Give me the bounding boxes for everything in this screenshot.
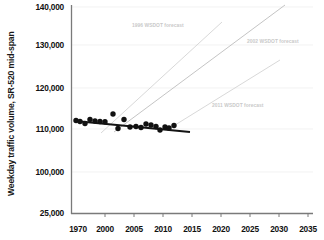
data-point <box>87 117 92 122</box>
data-point <box>110 111 115 116</box>
chart-background <box>0 0 324 240</box>
data-point <box>143 121 148 126</box>
data-point <box>77 119 82 124</box>
y-tick-label: 25,000 <box>40 208 65 218</box>
y-tick-label: 110,000 <box>36 124 65 134</box>
traffic-volume-scatter-chart: 140,000 130,000 120,000 110,000 100,000 … <box>0 0 324 240</box>
y-tick-label: 100,000 <box>35 167 64 177</box>
data-point <box>148 122 153 127</box>
y-tick-label: 130,000 <box>35 40 64 50</box>
data-point <box>127 124 132 129</box>
data-point <box>133 124 138 129</box>
x-axis-tick-labels: 1970 2000 2005 2010 2015 2020 2025 2030 … <box>69 224 317 234</box>
y-tick-label: 120,000 <box>35 83 64 93</box>
data-point <box>121 117 126 122</box>
data-point <box>92 118 97 123</box>
x-tick-label: 2025 <box>241 224 259 234</box>
forecast-2002-label: 2002 WSDOT forecast <box>247 39 299 44</box>
x-tick-label: 2035 <box>299 224 317 234</box>
data-point <box>138 125 143 130</box>
forecast-2011-label: 2011 WSDOT forecast <box>212 103 264 108</box>
data-point <box>82 121 87 126</box>
x-tick-label: 2030 <box>270 224 288 234</box>
y-axis-title: Weekday traffic volume, SR-520 mid-span <box>6 32 16 197</box>
x-tick-label: 1970 <box>69 224 87 234</box>
data-point <box>166 125 171 130</box>
x-tick-label: 2005 <box>125 224 143 234</box>
chart-container: 140,000 130,000 120,000 110,000 100,000 … <box>0 0 324 240</box>
x-tick-label: 2010 <box>154 224 172 234</box>
forecast-1996-label: 1996 WSDOT forecast <box>132 23 184 28</box>
data-point <box>157 127 162 132</box>
data-point <box>115 126 120 131</box>
x-tick-label: 2000 <box>96 224 114 234</box>
x-tick-label: 2020 <box>212 224 230 234</box>
x-tick-label: 2015 <box>183 224 201 234</box>
data-point <box>171 123 176 128</box>
data-point <box>97 119 102 124</box>
data-point <box>102 119 107 124</box>
y-tick-label: 140,000 <box>35 2 64 12</box>
